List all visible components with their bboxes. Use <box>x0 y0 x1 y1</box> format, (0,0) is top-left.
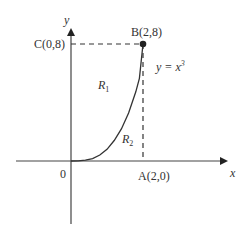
y-axis-label: y <box>63 13 70 27</box>
point-a-label: A(2,0) <box>138 169 170 183</box>
curve-equation-label: y = x3 <box>155 59 185 74</box>
point-b-label: B(2,8) <box>131 25 162 39</box>
point-c-label: C(0,8) <box>34 37 65 51</box>
diagram-canvas: y x 0 C(0,8) B(2,8) A(2,0) y = x3 R1 R2 <box>0 0 246 234</box>
point-b-marker <box>140 41 147 48</box>
origin-label: 0 <box>60 167 66 181</box>
x-axis-label: x <box>229 166 236 180</box>
region-r2-label: R2 <box>121 132 133 148</box>
coordinate-plane: y x 0 C(0,8) B(2,8) A(2,0) y = x3 R1 R2 <box>0 0 246 234</box>
region-r1-label: R1 <box>97 78 109 94</box>
